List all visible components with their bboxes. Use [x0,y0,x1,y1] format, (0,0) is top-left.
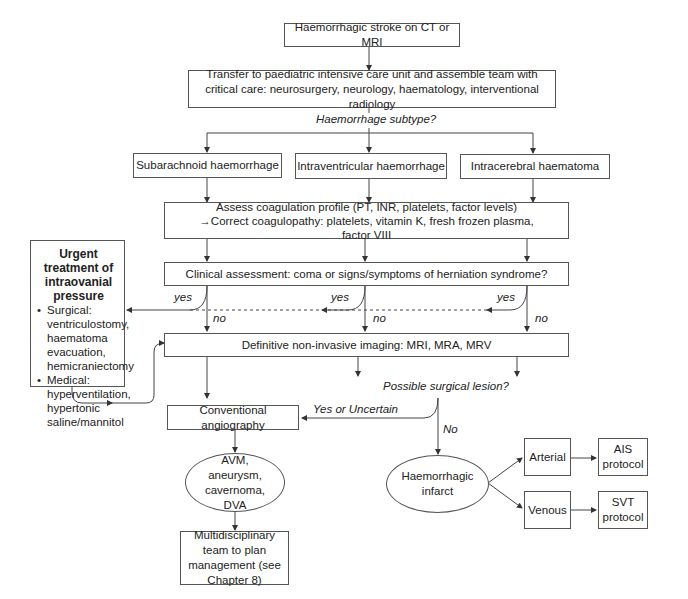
no-label-2: no [373,312,386,324]
no-label-3: no [535,312,548,324]
no-surgical-label: No [443,423,458,435]
intraventricular-node: Intraventricular haemorrhage [295,153,447,179]
subtype-question: Haemorrhage subtype? [316,113,436,125]
yes-label-3: yes [497,291,515,303]
ais-protocol-node: AIS protocol [598,438,648,476]
clinical-assessment-node: Clinical assessment: coma or signs/sympt… [164,262,569,286]
transfer-node: Transfer to paediatric intensive care un… [188,70,556,108]
surgical-lesion-question: Possible surgical lesion? [383,380,509,392]
angiography-node: Conventional angiography [167,405,299,430]
yes-label-2: yes [331,291,349,303]
infarct-node: Haemorrhagic infarct [386,455,489,513]
subarachnoid-node: Subarachnoid haemorrhage [133,153,282,178]
venous-node: Venous [524,491,571,529]
svt-protocol-node: SVT protocol [598,491,648,529]
arterial-node: Arterial [524,438,571,476]
urgent-treatment-box: Urgent treatment of intraovanial pressur… [30,240,125,387]
avm-node: AVM, aneurysm, cavernoma, DVA [185,453,285,512]
surgical-item: Surgical: ventriculostomy, haematoma eva… [37,303,120,373]
yes-label-1: yes [174,291,192,303]
urgent-treatment-title: Urgent treatment of intraovanial pressur… [37,247,120,303]
coagulation-node: Assess coagulation profile (PT, INR, pla… [164,202,569,239]
no-label-1: no [213,312,226,324]
intracerebral-node: Intracerebral haematoma [460,154,610,179]
yes-uncertain-label: Yes or Uncertain [313,403,398,415]
start-node: Haemorrhagic stroke on CT or MRI [284,23,460,47]
imaging-node: Definitive non-invasive imaging: MRI, MR… [164,333,569,357]
mdt-node: Multidisciplinary team to plan managemen… [180,531,289,585]
medical-item: Medical: hyperventilation, hypertonic sa… [37,373,120,429]
